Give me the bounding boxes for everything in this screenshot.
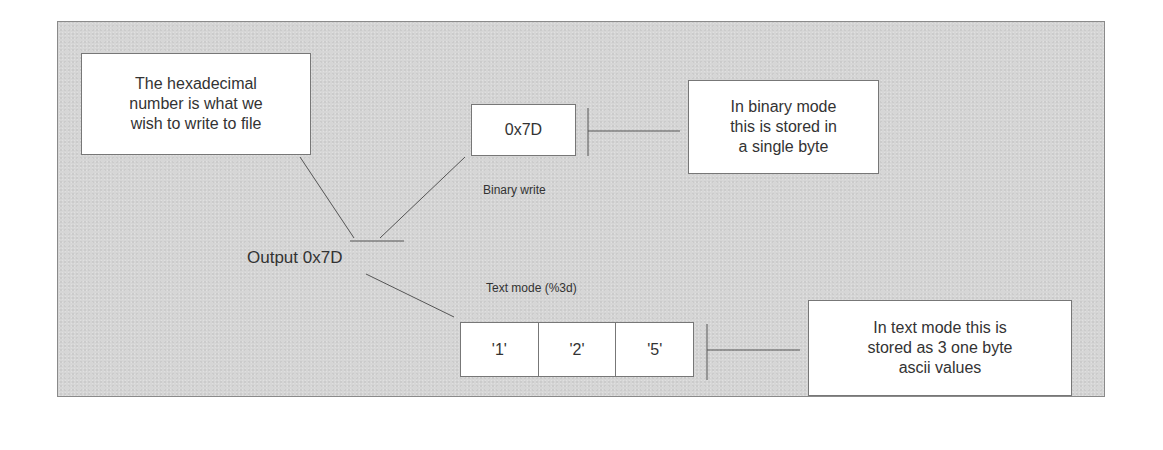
hex-note-line: wish to write to file	[129, 114, 262, 134]
text-note-line: stored as 3 one byte	[868, 338, 1013, 358]
text-note-line: In text mode this is	[868, 318, 1013, 338]
text-cell: '2'	[539, 323, 617, 376]
hex-note-line: number is what we	[129, 94, 262, 114]
binary-note-box: In binary mode this is stored in a singl…	[688, 80, 879, 174]
text-cell: '5'	[616, 323, 693, 376]
text-note-box: In text mode this is stored as 3 one byt…	[808, 300, 1072, 396]
binary-write-label: Binary write	[483, 183, 546, 197]
binary-value-box: 0x7D	[471, 104, 576, 156]
binary-note-line: a single byte	[730, 137, 837, 157]
text-note-line: ascii values	[868, 358, 1013, 378]
text-mode-label: Text mode (%3d)	[486, 281, 577, 295]
hex-note-box: The hexadecimal number is what we wish t…	[81, 53, 311, 155]
text-cells: '1' '2' '5'	[460, 322, 694, 377]
binary-value: 0x7D	[505, 120, 542, 140]
binary-note-line: In binary mode	[730, 97, 837, 117]
output-label: Output 0x7D	[247, 248, 342, 268]
text-cell: '1'	[461, 323, 539, 376]
hex-note-line: The hexadecimal	[129, 74, 262, 94]
binary-note-line: this is stored in	[730, 117, 837, 137]
